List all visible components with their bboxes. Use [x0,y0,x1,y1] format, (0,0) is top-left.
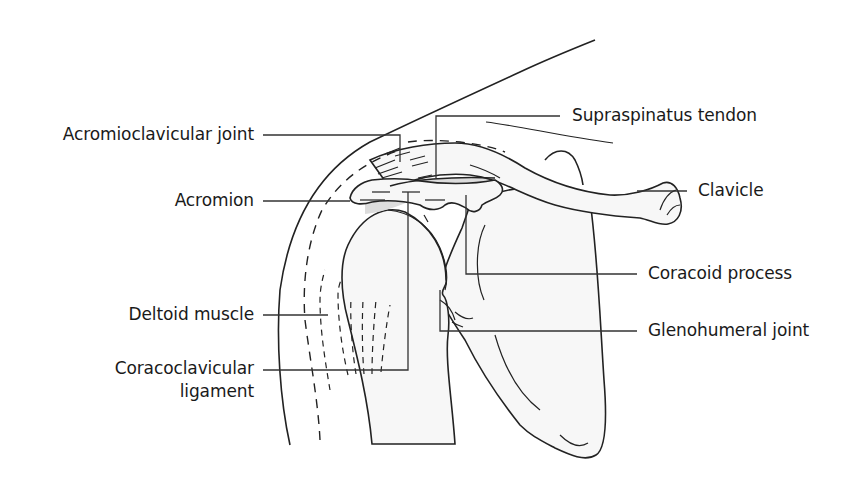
label-coracoid-process: Coracoid process [648,263,792,283]
diagram-artwork [0,0,867,489]
shoulder-anatomy-diagram: Acromioclavicular joint Acromion Deltoid… [0,0,867,489]
label-coracoclavicular-ligament-line2: ligament [40,381,254,401]
label-glenohumeral-joint: Glenohumeral joint [648,320,809,340]
label-coracoclavicular-ligament-line1: Coracoclavicular [40,358,254,378]
label-acromion: Acromion [40,190,254,210]
label-supraspinatus-tendon: Supraspinatus tendon [572,105,757,125]
label-deltoid-muscle: Deltoid muscle [40,304,254,324]
scapula [440,187,606,458]
label-acromioclavicular-joint: Acromioclavicular joint [40,124,254,144]
label-clavicle: Clavicle [698,180,764,200]
